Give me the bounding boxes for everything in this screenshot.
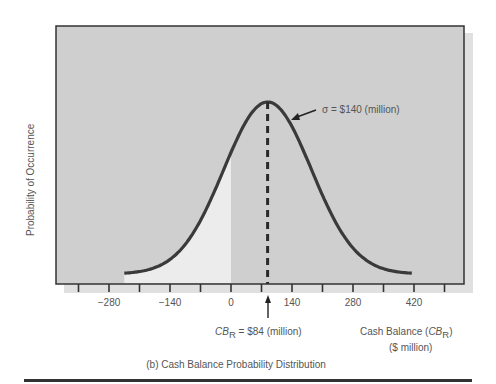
sigma-label: σ = $140 (million) — [322, 104, 400, 115]
bottom-rule — [24, 379, 472, 382]
mean-label: CBR = $84 (million) — [215, 326, 302, 340]
x-axis-label: Cash Balance (CBR) — [360, 326, 453, 340]
y-axis-label: Probability of Occurrence — [25, 123, 36, 236]
x-tick-label: 420 — [406, 297, 423, 308]
x-axis-tick-labels: −280−1400140280420 — [98, 297, 423, 308]
x-tick-label: 280 — [345, 297, 362, 308]
plot-area — [56, 26, 464, 284]
cash-balance-distribution-chart: −280−1400140280420 σ = $140 (million) CB… — [0, 0, 496, 384]
mean-arrow-head-icon — [265, 295, 271, 303]
x-tick-label: 140 — [284, 297, 301, 308]
x-axis-units: ($ million) — [389, 342, 432, 353]
x-tick-label: 0 — [228, 297, 234, 308]
x-tick-label: −140 — [159, 297, 182, 308]
x-tick-label: −280 — [98, 297, 121, 308]
chart-caption: (b) Cash Balance Probability Distributio… — [0, 359, 496, 370]
